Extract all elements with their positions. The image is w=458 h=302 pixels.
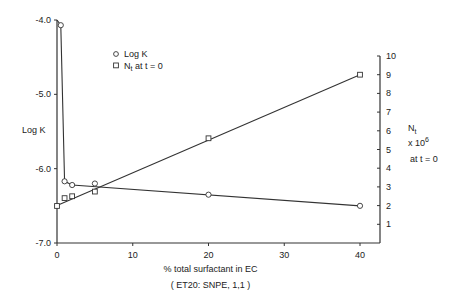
x-axis-sublabel: ( ET20: SNPE, 1,1 ) — [171, 280, 251, 290]
circle-marker — [206, 192, 211, 197]
right-y-tick-label: 5 — [386, 145, 391, 155]
right-y-tick-label: 8 — [386, 88, 391, 98]
labels: Log KNtx 106at t = 0% total surfactant i… — [22, 123, 438, 290]
x-tick-label: 40 — [355, 250, 365, 260]
circle-marker — [92, 181, 97, 186]
legend-square-icon — [114, 63, 119, 68]
right-y-tick-label: 2 — [386, 201, 391, 211]
legend-label-logk: Log K — [124, 49, 148, 59]
left-y-tick-label: -7.0 — [35, 238, 51, 248]
right-y-tick-label: 1 — [386, 219, 391, 229]
left-y-tick-label: -5.0 — [35, 89, 51, 99]
right-y-axis-label: Nt — [408, 123, 417, 135]
right-y-tick-label: 4 — [386, 163, 391, 173]
left-y-tick-label: -4.0 — [35, 15, 51, 25]
right-y-tick-label: 10 — [386, 51, 396, 61]
square-marker — [206, 136, 211, 141]
legend-label-nt: Nt at t = 0 — [124, 61, 163, 72]
legend: Log KNt at t = 0 — [114, 49, 163, 72]
series-line — [57, 20, 360, 206]
legend-circle-icon — [114, 52, 119, 57]
square-marker — [70, 194, 75, 199]
series — [55, 20, 363, 208]
right-y-tick-label: 3 — [386, 182, 391, 192]
left-y-axis-label: Log K — [22, 125, 46, 135]
left-y-tick-label: -6.0 — [35, 164, 51, 174]
square-marker — [92, 189, 97, 194]
x-axis-label: % total surfactant in EC — [163, 264, 258, 274]
circle-marker — [70, 182, 75, 187]
square-marker — [62, 196, 67, 201]
right-y-axis-multiplier: x 106 — [408, 136, 429, 148]
right-y-tick-label: 7 — [386, 107, 391, 117]
circle-marker — [357, 203, 362, 208]
x-tick-label: 20 — [203, 250, 213, 260]
circle-marker — [62, 179, 67, 184]
x-tick-label: 30 — [279, 250, 289, 260]
right-y-tick-label: 9 — [386, 70, 391, 80]
x-tick-label: 10 — [128, 250, 138, 260]
x-tick-label: 0 — [54, 250, 59, 260]
square-marker — [358, 72, 363, 77]
chart: -4.0-5.0-6.0-7.012345678910010203040 Log… — [0, 0, 458, 302]
right-y-axis-sublabel: at t = 0 — [410, 154, 438, 164]
right-y-tick-label: 6 — [386, 126, 391, 136]
square-marker — [55, 204, 60, 209]
circle-marker — [58, 23, 63, 28]
